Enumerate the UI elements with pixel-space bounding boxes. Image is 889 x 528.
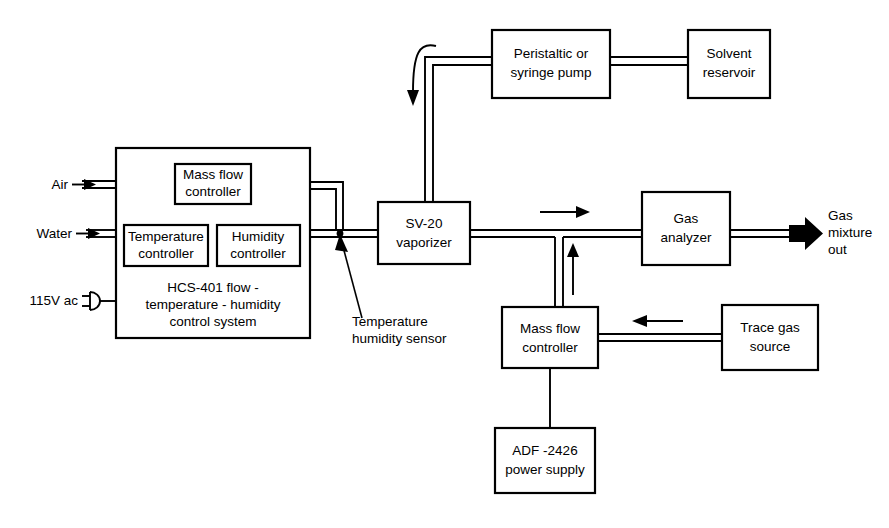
vaporizer-label-line1: SV-20 bbox=[406, 216, 443, 231]
reservoir-label-line1: Solvent bbox=[706, 46, 751, 61]
power-plug-icon bbox=[82, 292, 100, 310]
analyzer-label-line1: Gas bbox=[674, 211, 699, 226]
solvent-pipe-outer bbox=[425, 57, 492, 202]
mass-flow-controller-bottom-box[interactable]: Mass flow controller bbox=[502, 307, 598, 368]
process-flow-diagram: Air Water 115V ac M bbox=[0, 0, 889, 528]
temp-ctrl-label-line2: controller bbox=[138, 246, 194, 261]
curved-arrow-down-icon bbox=[407, 45, 436, 106]
mains-power-group: 115V ac bbox=[29, 292, 116, 310]
solvent-pipe-inner bbox=[433, 65, 492, 202]
mass-flow-controller-top-box[interactable]: Mass flow controller bbox=[175, 164, 251, 204]
mix-up-arrow-group bbox=[567, 243, 579, 295]
mfc-bottom-label-line1: Mass flow bbox=[520, 321, 580, 336]
trace-gas-source-box[interactable]: Trace gas source bbox=[722, 305, 818, 370]
arrow-left-icon bbox=[632, 315, 647, 327]
vaporizer-outline bbox=[378, 202, 470, 264]
outlet-label-line1: Gas bbox=[828, 208, 853, 223]
mfc-bottom-outline bbox=[502, 307, 598, 368]
analyzer-outline bbox=[642, 192, 730, 265]
air-inlet-label: Air bbox=[52, 177, 69, 192]
mfc-bottom-label-line2: controller bbox=[522, 340, 578, 355]
trace-gas-piping bbox=[598, 315, 722, 341]
power-supply-label-line1: ADF -2426 bbox=[512, 443, 577, 458]
adf-power-supply-box[interactable]: ADF -2426 power supply bbox=[495, 428, 595, 493]
humidity-ctrl-label-line1: Humidity bbox=[232, 229, 285, 244]
gas-mixture-outlet-group: Gas mixture out bbox=[730, 208, 872, 257]
trace-gas-arrow-group bbox=[632, 315, 683, 327]
sensor-label-line1: Temperature bbox=[352, 314, 428, 329]
arrow-up-icon bbox=[567, 243, 579, 257]
gas-analyzer-box[interactable]: Gas analyzer bbox=[642, 192, 730, 265]
hcs-caption-line3: control system bbox=[169, 314, 256, 329]
mfc-top-label-line2: controller bbox=[185, 184, 241, 199]
outlet-label-line2: mixture bbox=[828, 225, 872, 240]
outlet-label-line3: out bbox=[828, 242, 847, 257]
power-supply-outline bbox=[495, 428, 595, 493]
water-inlet-label: Water bbox=[36, 226, 72, 241]
sensor-leader-line bbox=[342, 243, 362, 318]
humidity-controller-box[interactable]: Humidity controller bbox=[217, 225, 300, 266]
arrow-right-icon bbox=[576, 206, 590, 218]
temperature-controller-box[interactable]: Temperature controller bbox=[124, 225, 208, 266]
gas-flow-arrow-group bbox=[540, 206, 590, 218]
trace-gas-label-line2: source bbox=[750, 339, 791, 354]
vaporizer-label-line2: vaporizer bbox=[396, 235, 452, 250]
hcs-caption-line2: temperature - humidity bbox=[145, 297, 280, 312]
solvent-reservoir-box[interactable]: Solvent reservoir bbox=[688, 30, 770, 98]
water-inlet-group: Water bbox=[36, 226, 116, 241]
hcs-to-vaporizer-piping bbox=[310, 182, 378, 237]
trace-gas-label-line1: Trace gas bbox=[740, 320, 800, 335]
mfc-top-label-line1: Mass flow bbox=[183, 167, 243, 182]
sensor-label-line2: humidity sensor bbox=[352, 331, 447, 346]
reservoir-label-line2: reservoir bbox=[703, 65, 756, 80]
trace-gas-outline bbox=[722, 305, 818, 370]
hcs-401-system-box[interactable]: Mass flow controller Temperature control… bbox=[116, 148, 310, 338]
peristaltic-syringe-pump-box[interactable]: Peristaltic or syringe pump bbox=[492, 30, 610, 98]
pump-label-line1: Peristaltic or bbox=[514, 46, 589, 61]
thick-arrow-right-icon bbox=[789, 217, 823, 250]
power-supply-label-line2: power supply bbox=[505, 462, 585, 477]
temp-ctrl-label-line1: Temperature bbox=[128, 229, 204, 244]
analyzer-label-line2: analyzer bbox=[660, 230, 712, 245]
sv-20-vaporizer-box[interactable]: SV-20 vaporizer bbox=[378, 202, 470, 264]
humidity-ctrl-label-line2: controller bbox=[230, 246, 286, 261]
mains-power-label: 115V ac bbox=[29, 293, 78, 308]
air-inlet-group: Air bbox=[52, 177, 117, 192]
vaporizer-to-analyzer-piping bbox=[470, 206, 642, 307]
hcs-branch-lower bbox=[310, 189, 336, 230]
hcs-caption-line1: HCS-401 flow - bbox=[167, 280, 259, 295]
diagram-canvas: Air Water 115V ac M bbox=[0, 0, 889, 528]
pump-label-line2: syringe pump bbox=[510, 65, 591, 80]
